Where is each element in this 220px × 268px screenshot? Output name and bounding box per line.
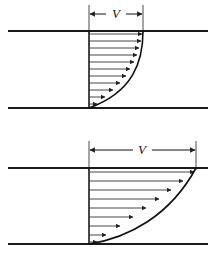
top-panel-profile-curve bbox=[89, 31, 143, 108]
bottom-panel-velocity-vectors bbox=[89, 172, 194, 242]
figure-canvas: V bbox=[0, 0, 220, 268]
bottom-dimension-label: V bbox=[138, 142, 148, 157]
top-dimension-label: V bbox=[112, 6, 122, 21]
bottom-panel-profile-curve bbox=[89, 168, 196, 244]
velocity-profile-figure: V bbox=[0, 0, 220, 268]
top-panel-group: V bbox=[8, 5, 208, 108]
bottom-panel-group: V bbox=[8, 141, 208, 244]
